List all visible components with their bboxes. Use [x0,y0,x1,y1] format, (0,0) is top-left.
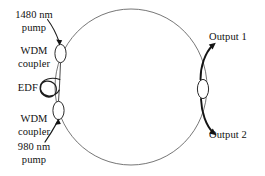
label-wdm-coupler-bottom-line2: coupler [6,126,62,139]
label-pump-1480-line1: 1480 nm [6,9,62,22]
label-pump-980-line1: 980 nm [6,141,62,154]
label-pump-1480-line2: pump [6,22,62,35]
output-2-arrow [201,99,213,133]
label-wdm-coupler-bottom: WDM coupler [6,113,62,138]
label-wdm-coupler-top: WDM coupler [6,45,62,70]
fiber-ring-cavity [55,9,207,165]
label-pump-980-line2: pump [6,154,62,167]
figure-canvas: 1480 nm pump WDM coupler EDF WDM coupler… [0,0,265,176]
label-output-2: Output 2 [209,129,265,142]
label-pump-1480: 1480 nm pump [6,9,62,34]
edf-fiber-coil [40,78,60,97]
label-wdm-coupler-top-line2: coupler [6,58,62,71]
output-coupler [197,79,208,98]
label-pump-980: 980 nm pump [6,141,62,166]
label-wdm-coupler-top-line1: WDM [6,45,62,58]
label-edf: EDF [4,82,38,95]
label-wdm-coupler-bottom-line1: WDM [6,113,62,126]
label-output-1: Output 1 [209,31,265,44]
